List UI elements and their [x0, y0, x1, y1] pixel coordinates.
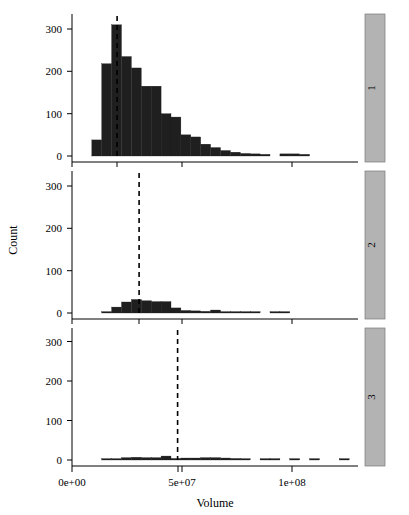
histogram-bar — [171, 117, 181, 156]
histogram-bar — [230, 312, 240, 313]
histogram-bar — [211, 458, 221, 460]
histogram-bar — [290, 459, 300, 460]
histogram-bar — [221, 151, 231, 157]
histogram-bar — [230, 152, 240, 156]
histogram-bar — [339, 459, 349, 460]
histogram-bar — [300, 154, 310, 156]
histogram-bar — [211, 310, 221, 313]
histogram-bar — [290, 154, 300, 156]
histogram-bar — [280, 312, 290, 313]
histogram-bar — [151, 86, 161, 156]
panel-1-y-ticks — [67, 29, 72, 156]
panel-1-y-tick-label-100: 100 — [46, 108, 63, 120]
histogram-bar — [131, 457, 141, 460]
panel-1-strip-label: 1 — [365, 85, 377, 91]
panel-3-x-ticks — [72, 466, 292, 472]
panel-2: 0 100 200 300 2 — [46, 171, 386, 324]
histogram-bar — [250, 154, 260, 156]
histogram-bar — [151, 302, 161, 313]
histogram-bar — [240, 312, 250, 313]
panel-3-y-tick-label-0: 0 — [57, 454, 63, 466]
panel-3-background — [72, 328, 358, 466]
histogram-bar — [191, 137, 201, 156]
histogram-bar — [280, 154, 290, 156]
panel-1: 0 100 200 300 1 — [46, 14, 386, 167]
histogram-bar — [211, 148, 221, 156]
histogram-bar — [240, 153, 250, 156]
x-axis-title: Volume — [196, 496, 233, 510]
panel-1-y-tick-label-200: 200 — [46, 65, 63, 77]
panel-3-y-tick-label-200: 200 — [46, 375, 63, 387]
panel-2-y-tick-label-200: 200 — [46, 222, 63, 234]
histogram-bar — [102, 64, 112, 156]
histogram-bar — [260, 154, 270, 156]
panel-2-y-ticks — [67, 186, 72, 313]
histogram-bar — [102, 312, 112, 313]
histogram-bar — [201, 458, 211, 460]
x-tick-label-0: 0e+00 — [58, 476, 86, 488]
panel-3-y-ticks — [67, 342, 72, 461]
histogram-bar — [240, 459, 250, 460]
histogram-bar — [201, 144, 211, 156]
histogram-bar — [191, 311, 201, 313]
x-tick-label-5e7: 5e+07 — [168, 476, 196, 488]
histogram-bar — [131, 68, 141, 156]
panel-3-strip-label: 3 — [365, 394, 377, 400]
histogram-bar — [181, 310, 191, 313]
histogram-bar — [112, 307, 122, 313]
histogram-bar — [181, 458, 191, 460]
panel-2-y-tick-label-300: 300 — [46, 180, 63, 192]
panel-2-background — [72, 171, 358, 319]
histogram-bar — [112, 459, 122, 460]
panel-2-strip-label: 2 — [365, 242, 377, 248]
panel-3-y-tick-label-300: 300 — [46, 336, 63, 348]
histogram-bar — [181, 135, 191, 156]
panel-2-y-tick-label-0: 0 — [57, 307, 63, 319]
histogram-bar — [161, 114, 171, 156]
panel-2-y-tick-label-100: 100 — [46, 265, 63, 277]
histogram-bar — [92, 140, 102, 156]
histogram-bar — [260, 459, 270, 460]
histogram-bar — [141, 86, 151, 156]
histogram-bar — [161, 456, 171, 460]
trellis-histogram-svg: 0 100 200 300 1 — [0, 0, 409, 515]
histogram-bar — [250, 312, 260, 313]
panel-1-y-tick-label-300: 300 — [46, 23, 63, 35]
histogram-bar — [141, 458, 151, 460]
histogram-bar — [270, 459, 280, 460]
y-axis-title: Count — [6, 225, 20, 255]
panel-2-x-ticks — [72, 319, 292, 324]
histogram-bar — [191, 458, 201, 460]
histogram-bar — [151, 458, 161, 460]
histogram-bar — [161, 302, 171, 313]
histogram-figure: 0 100 200 300 1 — [0, 0, 409, 515]
histogram-bar — [171, 308, 181, 313]
histogram-bar — [310, 459, 320, 460]
panel-1-x-ticks — [72, 162, 292, 167]
panel-1-y-tick-label-0: 0 — [57, 150, 63, 162]
panel-3: 0 100 200 300 3 — [46, 328, 386, 472]
histogram-bar — [230, 458, 240, 460]
histogram-bar — [122, 458, 132, 460]
panel-3-y-tick-label-100: 100 — [46, 415, 63, 427]
histogram-bar — [171, 458, 181, 460]
histogram-bar — [141, 301, 151, 313]
histogram-bar — [270, 312, 280, 313]
histogram-bar — [201, 311, 211, 313]
histogram-bar — [221, 312, 231, 313]
histogram-bar — [122, 302, 132, 313]
histogram-bar — [221, 458, 231, 460]
x-tick-label-1e8: 1e+08 — [278, 476, 306, 488]
histogram-bar — [102, 459, 112, 460]
x-tick-labels: 0e+00 5e+07 1e+08 — [58, 476, 306, 488]
histogram-bar — [122, 57, 132, 156]
